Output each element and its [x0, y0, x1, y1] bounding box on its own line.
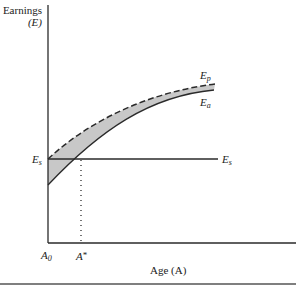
ep-label-base: E — [200, 69, 207, 81]
es-line-label: Es — [222, 153, 232, 165]
es-line-label-sub: s — [229, 158, 232, 167]
ea-curve — [48, 90, 214, 185]
a-star-tick-base: A — [76, 250, 83, 262]
x-axis-label: Age (A) — [150, 264, 186, 276]
ea-label-base: E — [200, 96, 207, 108]
shaded-region — [48, 84, 215, 185]
ep-label-sub: p — [207, 74, 211, 83]
y-axis-label: Earnings (E) — [2, 4, 42, 28]
ea-label: Ea — [200, 96, 211, 108]
y-axis-label-line2: (E) — [2, 16, 42, 28]
a0-tick-sub: 0 — [48, 254, 52, 263]
a0-tick-base: A — [41, 249, 48, 261]
a0-tick-label: A0 — [41, 249, 52, 261]
es-line-label-base: E — [222, 153, 229, 165]
ea-label-sub: a — [207, 101, 211, 110]
es-tick-sub: s — [39, 158, 42, 167]
y-axis-label-line1: Earnings — [2, 4, 42, 16]
ep-label: Ep — [200, 69, 211, 81]
a-star-tick-sup: * — [83, 250, 88, 260]
a-star-tick-label: A* — [76, 249, 87, 262]
es-y-tick-label: Es — [32, 153, 42, 165]
es-tick-base: E — [32, 153, 39, 165]
